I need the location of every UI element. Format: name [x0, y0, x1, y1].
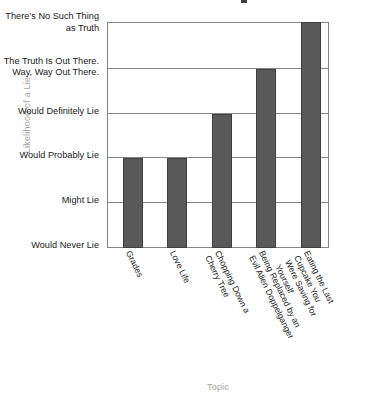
bar-grades[interactable] [123, 158, 143, 248]
y-tick-label-4: The Truth Is Out There. Way, Way Out The… [1, 55, 99, 78]
x-tick-label-chopping-cherry-tree: Chopping Down a Cherry Tree [203, 249, 252, 320]
bar-last-cupcake[interactable] [301, 22, 321, 248]
y-tick-label-2: Would Probably Lie [1, 151, 99, 163]
x-axis-title: Topic [107, 382, 329, 392]
chart-title-fragment [241, 0, 247, 3]
bar-chopping-cherry-tree[interactable] [212, 114, 232, 248]
y-tick-label-1: Might Lie [1, 195, 99, 207]
y-tick-label-3: Would Definitely Lie [1, 106, 99, 118]
x-tick-label-grades: Grades [124, 249, 146, 279]
bar-love-life[interactable] [167, 158, 187, 248]
y-tick-label-5: There’s No Such Thing as Truth [1, 11, 99, 34]
x-axis-category-labels: Grades Love Life Chopping Down a Cherry … [107, 249, 377, 399]
bar-alien-doppelganger[interactable] [256, 69, 276, 248]
x-tick-label-love-life: Love Life [168, 249, 193, 285]
bar-chart: Likelihood of a Lie There’s No Such Thin… [0, 0, 377, 409]
y-axis-tick-labels: There’s No Such Thing as Truth The Truth… [0, 0, 103, 409]
y-tick-label-0: Would Never Lie [1, 240, 99, 252]
bars-layer [107, 22, 329, 248]
